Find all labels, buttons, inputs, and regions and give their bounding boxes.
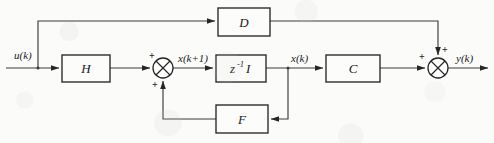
summer-input-sign-top: + (149, 50, 155, 61)
signal-label-input-u: u(k) (14, 49, 32, 62)
junction-dot-u-branch (37, 67, 40, 70)
wire-F-feedback (163, 81, 216, 119)
block-diagram-canvas: D H z -1 I C F + + (0, 0, 494, 143)
summer-group: + + + + (149, 44, 448, 90)
block-group: D H z -1 I C F (62, 8, 380, 133)
block-unit-delay-label: z (229, 61, 235, 76)
summer-input-sign-bottom: + (152, 79, 158, 90)
block-unit-delay-identity: I (245, 61, 251, 76)
wire-x-branch-to-F (271, 68, 288, 119)
block-F-label: F (237, 112, 247, 127)
summer-output-sign-top: + (442, 44, 448, 55)
summer-output-sign-left: + (419, 51, 425, 62)
block-unit-delay-exponent: -1 (237, 59, 244, 69)
signal-label-output-y: y(k) (455, 52, 473, 65)
block-diagram-svg: D H z -1 I C F + + (0, 0, 494, 143)
block-D-label: D (238, 15, 249, 30)
block-H-label: H (80, 61, 91, 76)
wire-D-to-output-summer (270, 21, 438, 55)
block-C-label: C (349, 61, 358, 76)
signal-label-state: x(k) (290, 52, 308, 65)
signal-label-state-next: x(k+1) (177, 52, 208, 65)
junction-dot-x-branch (287, 67, 290, 70)
